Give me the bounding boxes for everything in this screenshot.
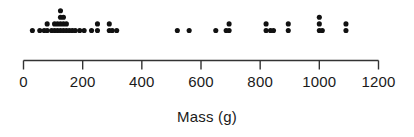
x-tick-label: 600 xyxy=(188,73,214,90)
data-dot xyxy=(264,21,269,26)
data-dot xyxy=(82,28,87,33)
data-dot xyxy=(64,21,69,26)
data-dot xyxy=(213,28,218,33)
data-dot xyxy=(187,28,192,33)
data-dot xyxy=(37,28,42,33)
data-dot xyxy=(110,28,115,33)
data-dot xyxy=(61,15,66,20)
data-dot xyxy=(320,28,325,33)
x-tick-label: 400 xyxy=(129,73,155,90)
data-dot xyxy=(95,21,100,26)
data-dot xyxy=(343,21,348,26)
x-axis-title: Mass (g) xyxy=(0,108,414,125)
data-dot xyxy=(317,21,322,26)
data-dot xyxy=(343,28,348,33)
data-dot xyxy=(317,15,322,20)
data-dot xyxy=(45,21,50,26)
dotplot-figure: 020040060080010001200 Mass (g) xyxy=(0,0,414,137)
data-dot xyxy=(286,28,291,33)
data-dot xyxy=(77,28,82,33)
data-dot xyxy=(114,28,119,33)
data-dot xyxy=(227,28,232,33)
data-dot xyxy=(271,28,276,33)
data-dot xyxy=(45,28,50,33)
data-dot xyxy=(227,21,232,26)
x-tick-label: 800 xyxy=(247,73,273,90)
data-dot xyxy=(73,28,78,33)
dot-layer xyxy=(30,8,349,33)
x-tick-label: 0 xyxy=(19,73,28,90)
x-tick-label: 1000 xyxy=(302,73,336,90)
data-dot xyxy=(95,28,100,33)
data-dot xyxy=(89,28,94,33)
data-dot xyxy=(175,28,180,33)
data-dot xyxy=(30,28,35,33)
data-dot xyxy=(264,28,269,33)
data-dot xyxy=(107,21,112,26)
x-tick-label: 1200 xyxy=(361,73,395,90)
data-dot xyxy=(286,21,291,26)
data-dot xyxy=(58,8,63,13)
x-axis xyxy=(24,61,379,70)
x-tick-label: 200 xyxy=(70,73,96,90)
